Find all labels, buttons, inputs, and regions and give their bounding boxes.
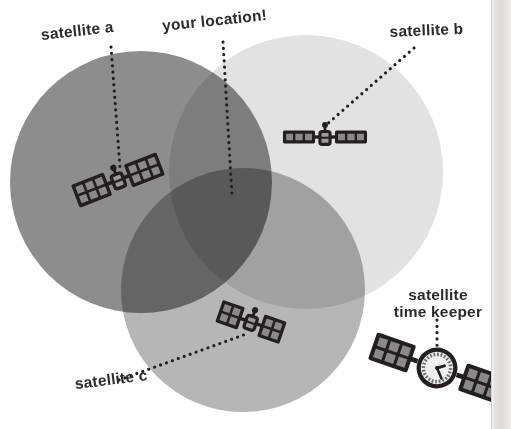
label-satellite-b: satellite b	[389, 20, 463, 41]
clock-tick	[441, 353, 442, 356]
clock-tick	[432, 379, 433, 382]
satellite-a	[71, 149, 163, 205]
solar-panel-array	[285, 132, 314, 142]
page-edge-shading	[491, 0, 511, 429]
label-time-keeper-line1: satellite	[386, 286, 490, 303]
satellite-time-keeper	[369, 329, 506, 407]
antenna-dish-icon	[109, 164, 117, 172]
label-time-keeper-line2: time keeper	[386, 303, 490, 320]
antenna-dish-icon	[251, 306, 259, 314]
satellite-c	[217, 297, 286, 342]
antenna-dish-icon	[322, 122, 328, 128]
clock-tick	[422, 363, 425, 364]
clock-tick	[422, 366, 426, 368]
clock-tick	[435, 380, 437, 384]
page-edge-line	[491, 0, 492, 429]
satellite-b	[285, 122, 366, 144]
solar-panel-array	[337, 132, 366, 142]
illustration-canvas: satellite a your location! satellite b s…	[0, 0, 511, 429]
clock-tick	[437, 353, 439, 357]
clock-tick	[448, 372, 451, 373]
satellites-layer	[0, 0, 511, 429]
clock-tick	[449, 368, 453, 370]
label-satellite-time-keeper: satellite time keeper	[386, 286, 490, 321]
